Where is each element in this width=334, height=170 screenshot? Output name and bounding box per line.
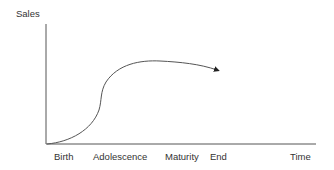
stage-label-birth: Birth [54, 152, 74, 162]
x-axis-label: Time [290, 152, 311, 162]
stage-label-adolescence: Adolescence [93, 152, 147, 162]
stage-label-maturity: Maturity [165, 152, 199, 162]
product-life-cycle-chart: Sales Birth Adolescence Maturity End Tim… [0, 0, 334, 170]
y-axis-label: Sales [16, 9, 40, 19]
stage-label-end: End [210, 152, 227, 162]
chart-canvas [0, 0, 334, 170]
life-cycle-curve [47, 61, 217, 144]
